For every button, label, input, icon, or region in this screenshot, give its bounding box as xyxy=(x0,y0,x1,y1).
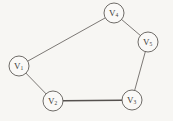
graph-diagram: V1V2V3V5V4 xyxy=(0,0,173,121)
graph-node-v3[interactable]: V3 xyxy=(122,90,142,110)
graph-edge-v3-v2 xyxy=(63,100,122,101)
graph-node-v1[interactable]: V1 xyxy=(9,56,29,76)
graph-node-subscript-v3: 3 xyxy=(133,99,136,105)
graph-node-subscript-v5: 5 xyxy=(149,41,152,47)
graph-node-v4[interactable]: V4 xyxy=(104,3,124,23)
graph-node-subscript-v2: 2 xyxy=(54,100,57,106)
graph-node-v2[interactable]: V2 xyxy=(43,91,63,111)
edge-layer xyxy=(26,18,145,101)
graph-edge-v4-v5 xyxy=(122,19,141,35)
graph-edge-v5-v3 xyxy=(135,52,146,91)
graph-node-v5[interactable]: V5 xyxy=(138,32,158,52)
node-layer: V1V2V3V5V4 xyxy=(9,3,158,111)
graph-node-subscript-v4: 4 xyxy=(115,12,118,18)
graph-edge-v2-v1 xyxy=(26,73,46,94)
graph-canvas: V1V2V3V5V4 xyxy=(0,0,173,121)
graph-node-subscript-v1: 1 xyxy=(20,65,23,71)
graph-edge-v1-v4 xyxy=(28,18,106,61)
